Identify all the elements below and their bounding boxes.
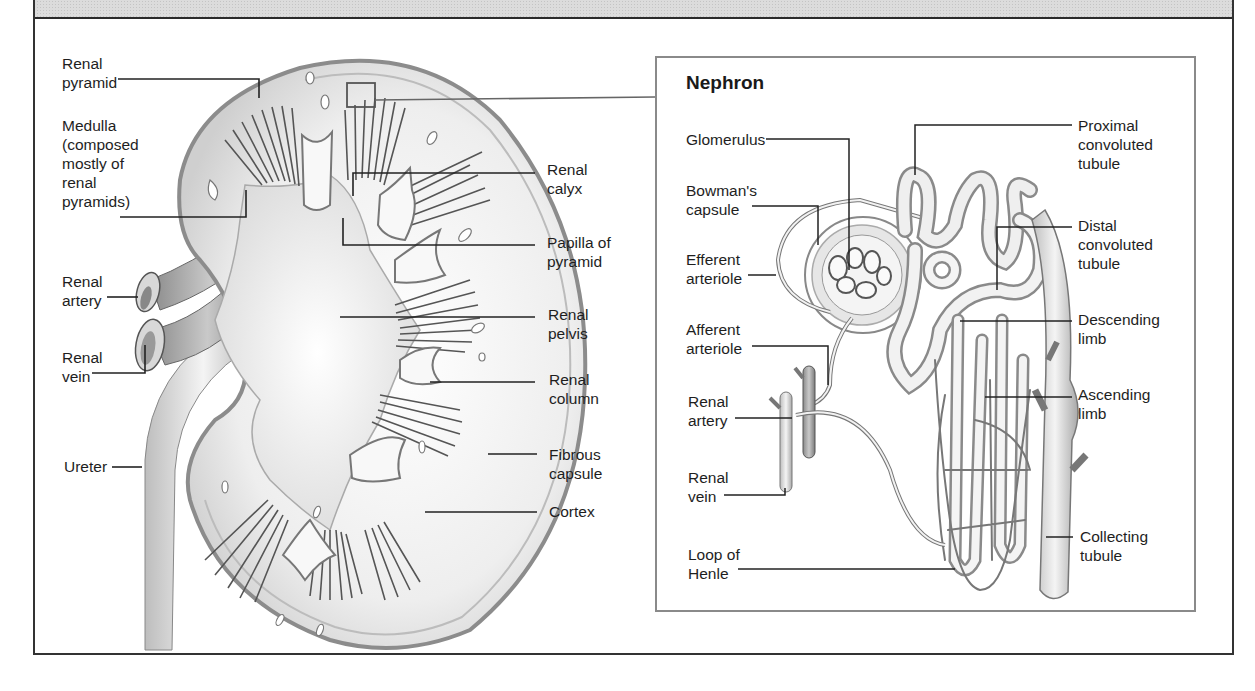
label-renal-pyramid: Renal pyramid (62, 54, 117, 92)
label-afferent-arteriole: Afferent arteriole (686, 320, 742, 358)
label-ureter: Ureter (64, 457, 107, 476)
label-bowmans-capsule: Bowman's capsule (686, 181, 757, 219)
label-proximal-convoluted-tubule: Proximal convoluted tubule (1078, 116, 1153, 173)
label-ascending-limb: Ascending limb (1078, 385, 1150, 423)
label-efferent-arteriole: Efferent arteriole (686, 250, 742, 288)
label-distal-convoluted-tubule: Distal convoluted tubule (1078, 216, 1153, 273)
nephron-title: Nephron (686, 72, 764, 94)
label-fibrous-capsule: Fibrous capsule (549, 445, 602, 483)
label-glomerulus: Glomerulus (686, 130, 765, 149)
label-renal-pelvis: Renal pelvis (548, 305, 589, 343)
label-renal-artery-kidney: Renal artery (62, 272, 103, 310)
label-renal-artery-nephron: Renal artery (688, 392, 729, 430)
label-loop-of-henle: Loop of Henle (688, 545, 740, 583)
label-medulla: Medulla (composed mostly of renal pyrami… (62, 116, 139, 211)
label-descending-limb: Descending limb (1078, 310, 1160, 348)
label-renal-calyx: Renal calyx (547, 160, 588, 198)
label-renal-column: Renal column (549, 370, 599, 408)
label-papilla-of-pyramid: Papilla of pyramid (547, 233, 611, 271)
label-renal-vein-kidney: Renal vein (62, 348, 103, 386)
label-cortex: Cortex (549, 502, 595, 521)
label-renal-vein-nephron: Renal vein (688, 468, 729, 506)
label-collecting-tubule: Collecting tubule (1080, 527, 1148, 565)
